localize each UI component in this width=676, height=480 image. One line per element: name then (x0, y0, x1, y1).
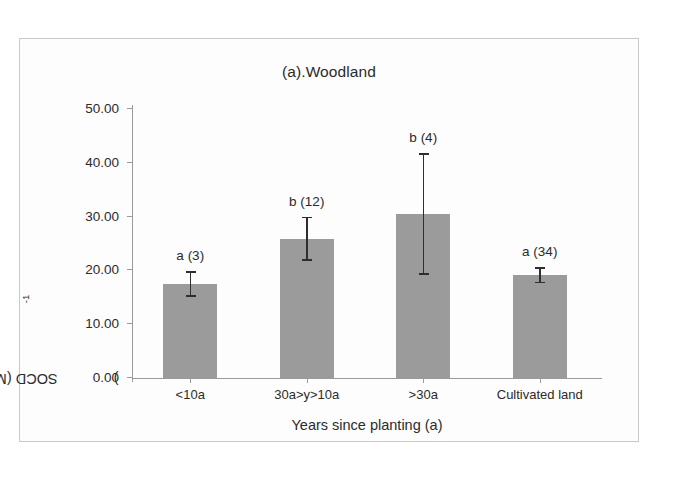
y-axis-tick-label: 10.00 (85, 316, 119, 331)
x-axis-tick (190, 378, 191, 383)
bar-significance-label: a (3) (176, 248, 204, 263)
y-axis-tick: 40.00 (127, 162, 132, 163)
chart-title: (a).Woodland (20, 63, 638, 81)
x-axis-line (132, 378, 602, 379)
error-bar (423, 153, 425, 275)
y-axis-tick-label: 0.00 (93, 370, 119, 385)
x-axis-tick (540, 378, 541, 383)
error-bar (539, 267, 541, 283)
y-axis-tick-label: 20.00 (85, 262, 119, 277)
y-axis-tick-label: 50.00 (85, 101, 119, 116)
y-axis-tick: 50.00 (127, 108, 132, 109)
y-axis-tick-label: 30.00 (85, 208, 119, 223)
x-axis-title: Years since planting (a) (132, 417, 602, 433)
y-axis-tick: 30.00 (127, 216, 132, 217)
bar[interactable] (163, 284, 217, 378)
error-bar (306, 217, 308, 261)
x-axis-tick (307, 378, 308, 383)
bar-significance-label: b (12) (289, 194, 324, 209)
error-bar (190, 271, 192, 297)
x-axis-category-label: <10a (176, 387, 205, 402)
x-axis-tick (423, 378, 424, 383)
plot-area: 0.0010.0020.0030.0040.0050.00a (3)b (12)… (132, 109, 598, 378)
x-axis-category-label: >30a (409, 387, 438, 402)
y-axis-title: SOCD (Mg ha-1) (54, 169, 74, 359)
y-axis-tick: 20.00 (127, 269, 132, 270)
bar[interactable] (513, 275, 567, 378)
y-axis-tick: 10.00 (127, 323, 132, 324)
bar-significance-label: a (34) (522, 244, 557, 259)
y-axis-title-exponent: -1 (20, 295, 31, 303)
y-axis-tick-label: 40.00 (85, 154, 119, 169)
y-axis-tick: 0.00 (127, 377, 132, 378)
bar-significance-label: b (4) (409, 130, 437, 145)
x-axis-category-label: 30a>y>10a (274, 387, 339, 402)
x-axis-category-label: Cultivated land (497, 387, 583, 402)
figure-frame: (a).Woodland SOCD (Mg ha-1) 0.0010.0020.… (19, 38, 639, 442)
